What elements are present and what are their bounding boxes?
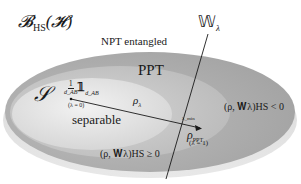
- lambda-one-label: (λ = 1): [189, 140, 208, 147]
- negative-expectation-label: (ρ, 𝐖λ)HS < 0: [224, 102, 284, 112]
- witness-symbol: 𝕎: [198, 13, 216, 30]
- lambda-zero-label: (λ = 0): [68, 102, 84, 108]
- nonnegative-expectation-label: (ρ, 𝐖λ)HS ≥ 0: [100, 149, 160, 159]
- lambda-min-label: λ_min: [182, 116, 195, 121]
- identity-subscript: d_AB: [85, 90, 98, 96]
- fraction-numerator: 1: [68, 80, 74, 89]
- ppt-label: PPT: [138, 63, 164, 78]
- hilbert-schmidt-space-label: 𝓑HS(𝓗): [18, 13, 72, 33]
- npt-entangled-label: NPT entangled: [101, 36, 167, 47]
- separable-label: separable: [72, 113, 121, 126]
- maximally-mixed-state-label: 1 d_AB 𝟙d_AB: [64, 78, 99, 96]
- witness-subscript: λ: [216, 23, 220, 33]
- rho-lambda-label: ρλ: [133, 95, 141, 109]
- title-argument: (𝓗): [46, 12, 72, 31]
- fraction: 1 d_AB: [64, 80, 77, 95]
- maximally-mixed-point: [70, 98, 73, 101]
- witness-label: 𝕎λ: [198, 14, 220, 33]
- fraction-denominator: d_AB: [64, 89, 77, 95]
- title-symbol: 𝓑: [18, 12, 33, 31]
- title-subscript: HS: [33, 22, 46, 33]
- rho-subscript: λ: [138, 101, 141, 109]
- separable-set-symbol: 𝒮: [34, 84, 50, 105]
